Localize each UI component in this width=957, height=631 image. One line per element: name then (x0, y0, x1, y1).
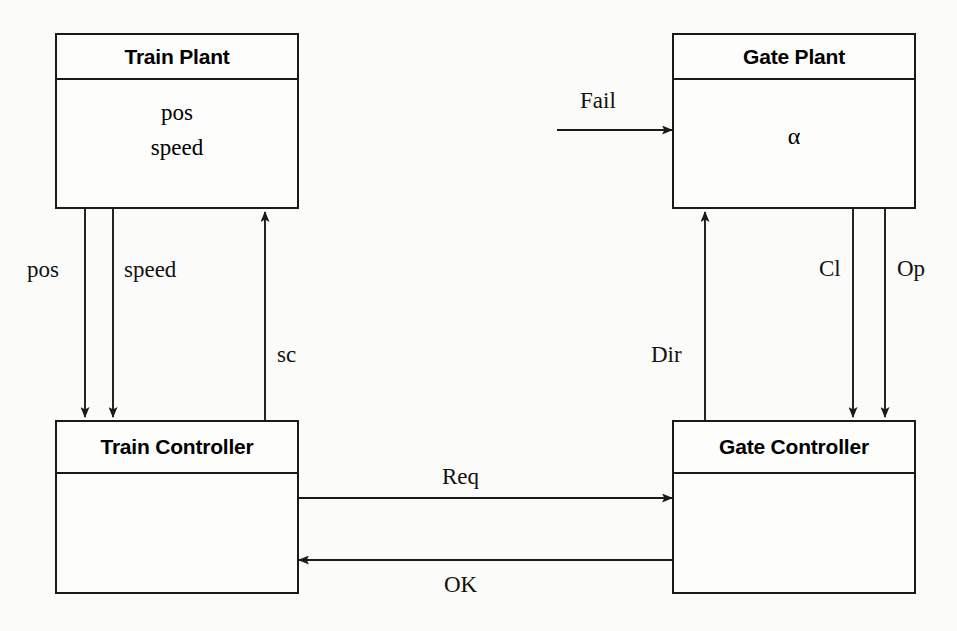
component-train-controller[interactable]: Train Controller (55, 420, 299, 594)
edge-label-fail: Fail (580, 89, 616, 112)
component-title-train-plant: Train Plant (57, 35, 297, 80)
component-title-gate-controller: Gate Controller (674, 422, 914, 474)
attribute-alpha: α (788, 96, 801, 154)
edge-label-speed: speed (124, 258, 176, 281)
component-train-plant[interactable]: Train Plant pos speed (55, 33, 299, 209)
edge-label-cl: Cl (819, 257, 841, 280)
attribute-pos: pos (161, 96, 193, 131)
edge-label-ok: OK (444, 573, 477, 596)
architecture-diagram: Train Plant pos speed Gate Plant α Train… (0, 0, 957, 631)
component-body-gate-plant: α (674, 80, 914, 207)
component-gate-plant[interactable]: Gate Plant α (672, 33, 916, 209)
attribute-speed: speed (151, 131, 203, 166)
component-body-train-plant: pos speed (57, 80, 297, 207)
edge-label-sc: sc (277, 343, 296, 366)
component-body-gate-controller (674, 474, 914, 592)
component-title-gate-plant: Gate Plant (674, 35, 914, 80)
edge-label-dir: Dir (651, 343, 682, 366)
edge-label-pos: pos (27, 258, 59, 281)
edge-label-op: Op (897, 257, 925, 280)
component-title-train-controller: Train Controller (57, 422, 297, 474)
component-body-train-controller (57, 474, 297, 592)
edge-label-req: Req (442, 465, 479, 488)
component-gate-controller[interactable]: Gate Controller (672, 420, 916, 594)
